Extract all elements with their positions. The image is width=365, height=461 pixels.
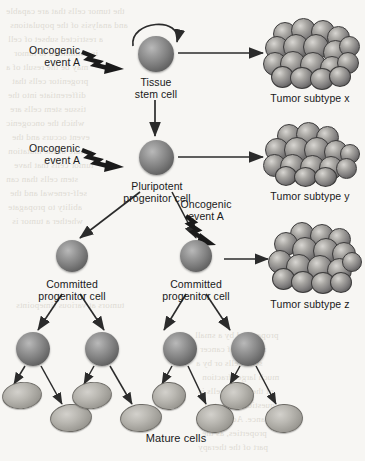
mature-cell-1[interactable] (1, 380, 44, 412)
oncogenic-event-label-1: Oncogenic event A (8, 44, 80, 68)
committed-progenitor-cell-left[interactable] (56, 240, 88, 272)
tissue-stem-cell-label: Tissue stem cell (118, 76, 194, 100)
tumor-mass-y[interactable] (263, 122, 359, 186)
bleed-line: a restricted subset of cell (8, 34, 103, 44)
bleed-line: and analysis of the populations (10, 20, 128, 30)
daughter-progenitor-cell-1[interactable] (16, 332, 50, 366)
bleed-line: self-renewal and the (10, 188, 87, 198)
committed-progenitor-label-left: Committed progenitor cell (24, 278, 120, 302)
tissue-stem-cell[interactable] (138, 36, 174, 72)
bleed-line: differentiate into the (8, 90, 86, 100)
tumor-mass-x[interactable] (263, 18, 359, 86)
bleed-line: progenitor cells that (12, 76, 88, 86)
tumor-subtype-x-label: Tumor subtype x (258, 92, 362, 104)
daughter-progenitor-cell-2[interactable] (85, 332, 119, 366)
mature-cell-4[interactable] (119, 402, 163, 434)
arrow-to-mature-4 (110, 366, 132, 404)
pluripotent-progenitor-cell[interactable] (139, 140, 174, 175)
bleed-line: much larger fraction (202, 372, 279, 382)
tumor-subtype-y-label: Tumor subtype y (258, 190, 362, 202)
bleed-line: tissue stem cells are (10, 104, 86, 114)
arrow-to-mature-2 (41, 366, 62, 404)
figure-canvas: the tumor cells that are capable and ana… (0, 0, 365, 461)
committed-progenitor-cell-right[interactable] (180, 240, 212, 272)
bleed-line: stem cells than can (6, 174, 78, 184)
bleed-line: which the oncogenic (6, 118, 84, 128)
committed-progenitor-label-right: Committed progenitor cell (148, 278, 244, 302)
bleed-line: the tumor cells that are capable (6, 6, 125, 16)
oncogenic-event-label-2: Oncogenic event A (8, 142, 80, 166)
bleed-line: whether a tumor is (12, 216, 83, 226)
tumor-subtype-z-label: Tumor subtype z (258, 298, 362, 310)
daughter-progenitor-cell-3[interactable] (163, 332, 197, 366)
oncogenic-event-label-3: Oncogenic event A (168, 198, 244, 222)
mature-cells-label: Mature cells (116, 432, 236, 444)
bleed-line: ability to propagate (8, 202, 82, 212)
daughter-progenitor-cell-4[interactable] (231, 332, 265, 366)
bleed-line: event occurs and the (12, 132, 90, 142)
tumor-mass-z[interactable] (268, 222, 360, 294)
mature-cell-8[interactable] (264, 403, 304, 435)
